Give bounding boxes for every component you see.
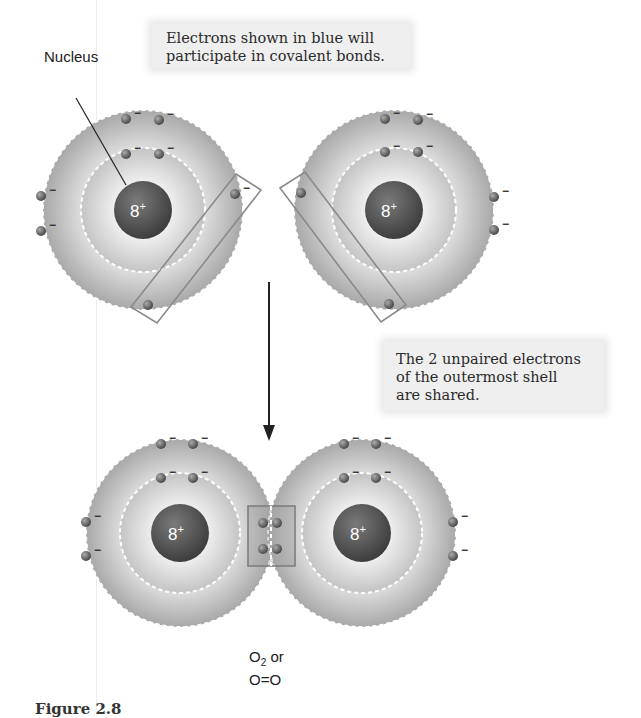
svg-text:−: − xyxy=(384,465,391,479)
svg-text:−: − xyxy=(94,509,101,523)
atom-bottom-right: 8+ − − − − − − xyxy=(268,431,468,627)
svg-text:−: − xyxy=(352,431,359,445)
atom-top-right: 8+ − − − − − − xyxy=(280,106,509,322)
svg-text:−: − xyxy=(134,106,141,120)
callout-text-line: are shared. xyxy=(396,386,480,404)
svg-text:−: − xyxy=(201,465,208,479)
figure-caption: Figure 2.8 xyxy=(35,700,122,718)
svg-text:−: − xyxy=(502,184,509,198)
svg-text:−: − xyxy=(169,431,176,445)
callout-shared-electrons: The 2 unpaired electrons of the outermos… xyxy=(384,342,604,410)
svg-text:−: − xyxy=(461,543,468,557)
callout-text-line: participate in covalent bonds. xyxy=(166,47,385,65)
atom-top-left: 8+ − − − − − − − xyxy=(36,106,261,323)
callout-text-line: of the outermost shell xyxy=(396,368,557,386)
formula-element: O xyxy=(249,648,261,665)
svg-text:−: − xyxy=(49,218,56,232)
svg-text:−: − xyxy=(426,139,433,153)
svg-text:−: − xyxy=(134,141,141,155)
svg-text:−: − xyxy=(167,141,174,155)
reaction-arrow xyxy=(263,282,275,441)
molecular-formula: O2 or O=O xyxy=(249,648,284,688)
svg-text:−: − xyxy=(169,465,176,479)
svg-text:−: − xyxy=(393,106,400,120)
svg-text:−: − xyxy=(94,543,101,557)
atom-bottom-left: 8+ − − − − − − xyxy=(81,431,274,627)
svg-text:−: − xyxy=(201,431,208,445)
shared-electron-pair-box xyxy=(248,506,295,566)
callout-text-line: Electrons shown in blue will xyxy=(166,29,374,47)
structural-formula: O=O xyxy=(249,671,284,688)
callout-covalent-electrons: Electrons shown in blue will participate… xyxy=(152,24,410,68)
svg-text:−: − xyxy=(384,431,391,445)
svg-text:−: − xyxy=(352,465,359,479)
svg-text:−: − xyxy=(49,183,56,197)
svg-text:−: − xyxy=(393,139,400,153)
svg-text:−: − xyxy=(461,509,468,523)
nucleus-label: Nucleus xyxy=(44,48,98,65)
svg-text:−: − xyxy=(502,217,509,231)
svg-text:−: − xyxy=(167,107,174,121)
svg-text:−: − xyxy=(426,107,433,121)
callout-text-line: The 2 unpaired electrons xyxy=(396,350,581,368)
formula-or: or xyxy=(266,648,284,665)
